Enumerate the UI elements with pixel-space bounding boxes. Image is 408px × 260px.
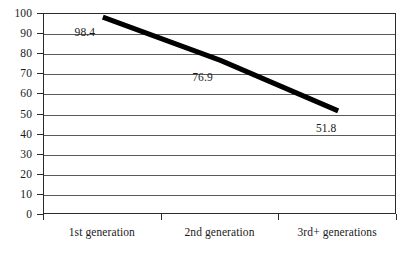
y-tick-label: 90	[2, 28, 32, 40]
y-tick-label: 70	[2, 68, 32, 80]
x-axis: 1st generation2nd generation3rd+ generat…	[43, 214, 396, 260]
x-category-label: 1st generation	[43, 226, 161, 239]
line-series	[44, 14, 397, 215]
y-tick-label: 10	[2, 189, 32, 201]
series-line-path	[103, 17, 338, 111]
data-point-label: 76.9	[187, 72, 219, 84]
y-tick-label: 50	[2, 109, 32, 121]
x-category-label: 3rd+ generations	[278, 226, 396, 239]
data-point-label: 98.4	[69, 27, 101, 39]
y-tick-label: 30	[2, 149, 32, 161]
y-axis: 1009080706050403020100	[0, 0, 43, 260]
y-tick-label: 0	[2, 209, 32, 221]
chart-screenshot: 1009080706050403020100 98.476.951.8 1st …	[0, 0, 408, 260]
x-category-label: 2nd generation	[161, 226, 279, 239]
y-tick-label: 60	[2, 88, 32, 100]
y-tick-label: 80	[2, 48, 32, 60]
x-tick-mark	[278, 214, 279, 220]
y-tick-label: 100	[2, 8, 32, 20]
data-point-label: 51.8	[310, 123, 342, 135]
x-tick-mark	[396, 214, 397, 220]
x-tick-mark	[161, 214, 162, 220]
plot-area: 98.476.951.8	[43, 13, 396, 214]
x-tick-mark	[43, 214, 44, 220]
y-tick-label: 20	[2, 169, 32, 181]
y-tick-label: 40	[2, 129, 32, 141]
